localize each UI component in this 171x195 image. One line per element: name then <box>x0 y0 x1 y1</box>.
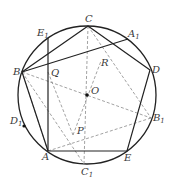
label-a: A <box>41 151 49 162</box>
label-o: O <box>91 85 99 96</box>
label-e: E <box>123 152 132 163</box>
geometry-diagram: C E1 A1 B Q R D O D1 B1 P A E C1 <box>0 0 171 195</box>
label-c1: C1 <box>81 166 93 179</box>
label-e1: E1 <box>36 27 49 40</box>
label-p: P <box>76 125 84 136</box>
label-c: C <box>85 13 93 24</box>
label-r: R <box>100 57 109 68</box>
label-b: B <box>12 66 20 77</box>
segment-b-a1 <box>22 39 128 72</box>
label-q: Q <box>51 67 59 78</box>
segment-b-e <box>22 72 84 164</box>
point-d1 <box>22 124 25 127</box>
label-b1: B1 <box>152 112 165 125</box>
point-o <box>85 93 89 97</box>
label-d: D <box>151 64 160 75</box>
segment-q-p <box>48 72 73 135</box>
label-a1: A1 <box>127 28 140 41</box>
segment-c-c1-diag <box>88 26 151 118</box>
label-d1: D1 <box>9 115 23 128</box>
